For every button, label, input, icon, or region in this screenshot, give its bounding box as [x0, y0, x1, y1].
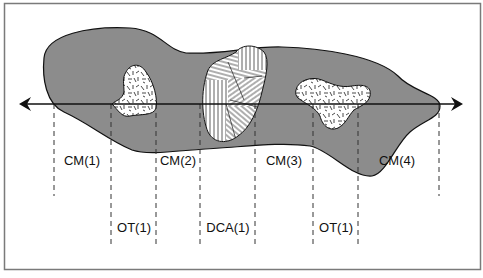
segment-label-ot1-left: OT(1): [117, 220, 151, 235]
segment-label-dca1: DCA(1): [206, 220, 249, 235]
segment-label-cm3: CM(3): [266, 153, 302, 168]
segment-label-cm1: CM(1): [64, 153, 100, 168]
segment-label-cm2: CM(2): [160, 153, 196, 168]
segment-label-ot1-right: OT(1): [319, 220, 353, 235]
segment-label-cm4: CM(4): [379, 153, 415, 168]
diagram-canvas: CM(1) OT(1) CM(2) DCA(1) CM(3) OT(1) CM(…: [0, 0, 483, 278]
